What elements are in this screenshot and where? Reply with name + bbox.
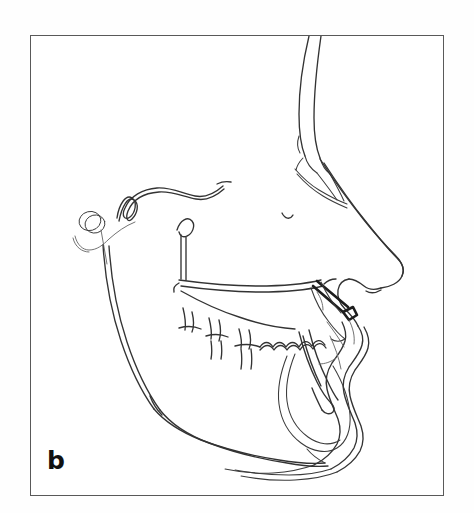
soft-tissue-nose-profile [320,159,403,288]
palatal-plane-maxilla [174,280,323,329]
panel-label: b [47,448,65,473]
maxillary-posterior-teeth [179,308,228,359]
soft-tissue-forehead-profile [299,36,321,158]
figure-frame-border: b [30,35,444,496]
submental-neck-contour [225,465,337,480]
mandibular-posterior-teeth [235,329,326,369]
nasal-bone-and-nasion [295,158,347,208]
porion-condyle-marker-circle [77,209,107,235]
sella-turcica-cranial-base-outline [117,182,231,221]
cephalometric-tracing-drawing [31,36,445,497]
figure-panel: b [0,0,474,513]
orbital-floor-marker [282,213,293,218]
posterior-ramus-border [103,245,160,410]
mandibular-central-incisor [299,330,338,414]
frontal-bone-outline [298,136,330,174]
pterygomaxillary-fissure [177,219,194,280]
